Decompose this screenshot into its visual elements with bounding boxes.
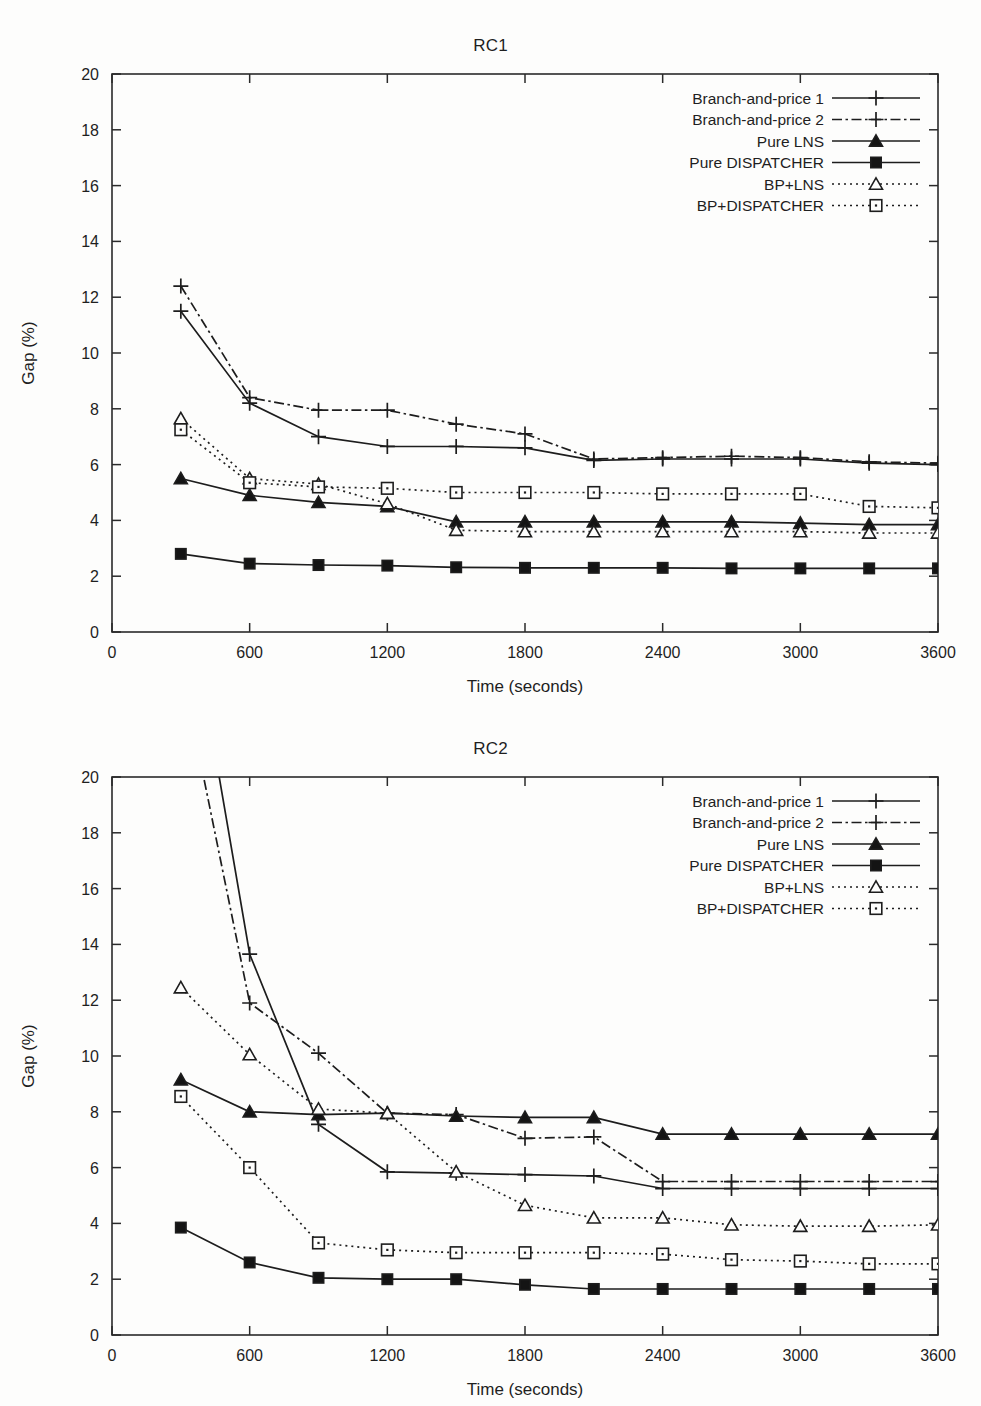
series-3: [174, 1074, 944, 1140]
series-line: [181, 419, 938, 533]
data-point: [589, 563, 599, 573]
y-tick-label: 10: [81, 345, 99, 362]
data-point: [587, 1212, 600, 1223]
data-point-dot: [386, 1249, 388, 1251]
legend-label: Pure DISPATCHER: [689, 154, 824, 171]
series-1: [173, 304, 945, 472]
data-point: [655, 450, 670, 465]
y-tick-label: 8: [90, 1104, 99, 1121]
data-point: [864, 563, 874, 573]
data-point: [933, 1284, 943, 1294]
x-tick-label: 600: [236, 644, 263, 661]
legend-label: Branch-and-price 2: [692, 814, 824, 831]
legend-label: BP+DISPATCHER: [697, 900, 824, 917]
y-tick-label: 6: [90, 457, 99, 474]
figure-page: RC1 024681012141618200600120018002400300…: [0, 0, 981, 1406]
data-point-dot: [593, 1252, 595, 1254]
legend: Branch-and-price 1Branch-and-price 2Pure…: [689, 793, 920, 918]
data-point: [933, 563, 943, 573]
data-point: [657, 563, 667, 573]
data-point-dot: [455, 491, 457, 493]
data-point: [244, 1257, 254, 1267]
legend-label: Pure LNS: [757, 133, 824, 150]
plot-canvas-rc2: 0246810121416182006001200180024003000360…: [0, 703, 981, 1406]
data-point-dot: [662, 493, 664, 495]
data-point: [725, 1219, 738, 1230]
data-point: [449, 417, 464, 432]
y-tick-label: 8: [90, 401, 99, 418]
legend-marker: [869, 112, 884, 127]
data-point: [242, 995, 257, 1010]
y-tick-label: 10: [81, 1048, 99, 1065]
legend-label: Pure DISPATCHER: [689, 857, 824, 874]
legend-marker: [869, 794, 884, 809]
legend-label: BP+LNS: [764, 176, 824, 193]
data-point-dot: [524, 1252, 526, 1254]
data-point: [518, 440, 533, 455]
y-tick-label: 12: [81, 992, 99, 1009]
legend-label: Branch-and-price 1: [692, 793, 824, 810]
y-tick-label: 2: [90, 568, 99, 585]
data-point: [174, 412, 187, 423]
y-tick-label: 0: [90, 624, 99, 641]
y-tick-label: 16: [81, 178, 99, 195]
series-line: [181, 430, 938, 508]
series-5: [174, 412, 944, 538]
data-point-dot: [317, 486, 319, 488]
series-line: [181, 479, 938, 525]
series-2: [173, 279, 945, 471]
data-point: [311, 429, 326, 444]
legend-marker: [871, 157, 881, 167]
series-line: [181, 1097, 938, 1264]
series-4: [176, 1222, 944, 1294]
data-point-dot: [868, 1263, 870, 1265]
data-point: [520, 563, 530, 573]
series-line: [181, 665, 938, 1181]
y-tick-label: 14: [81, 936, 99, 953]
data-point: [724, 1174, 739, 1189]
data-point: [173, 304, 188, 319]
x-tick-label: 0: [108, 644, 117, 661]
y-tick-label: 14: [81, 233, 99, 250]
data-point-dot: [593, 491, 595, 493]
data-point-dot: [180, 1095, 182, 1097]
x-tick-label: 2400: [645, 644, 681, 661]
data-point-dot: [524, 491, 526, 493]
y-axis-label: Gap (%): [19, 321, 38, 384]
data-point: [382, 1274, 392, 1284]
x-tick-label: 1800: [507, 644, 543, 661]
legend-marker-dot: [875, 907, 877, 909]
series-line: [181, 988, 938, 1227]
y-tick-label: 12: [81, 289, 99, 306]
legend-marker: [869, 815, 884, 830]
plot-canvas-rc1: 0246810121416182006001200180024003000360…: [0, 0, 981, 703]
x-axis-label: Time (seconds): [467, 677, 584, 696]
data-point-dot: [799, 1260, 801, 1262]
data-point: [451, 562, 461, 572]
legend-label: Branch-and-price 1: [692, 90, 824, 107]
legend-label: Pure LNS: [757, 836, 824, 853]
data-point-dot: [249, 1167, 251, 1169]
data-point: [173, 279, 188, 294]
data-point-dot: [317, 1242, 319, 1244]
series-line: [181, 554, 938, 569]
data-point-dot: [249, 482, 251, 484]
data-point: [313, 1273, 323, 1283]
data-point: [518, 1167, 533, 1182]
data-point: [312, 1103, 325, 1114]
series-2: [181, 665, 946, 1189]
data-point-dot: [180, 429, 182, 431]
x-tick-label: 1200: [370, 1347, 406, 1364]
x-tick-label: 0: [108, 1347, 117, 1364]
data-point: [586, 452, 601, 467]
data-point: [174, 472, 187, 483]
x-tick-label: 600: [236, 1347, 263, 1364]
y-tick-label: 20: [81, 769, 99, 786]
data-point: [449, 439, 464, 454]
data-point: [586, 1129, 601, 1144]
x-tick-label: 2400: [645, 1347, 681, 1364]
legend-marker-dot: [875, 204, 877, 206]
data-point: [176, 1222, 186, 1232]
y-tick-label: 20: [81, 66, 99, 83]
data-point: [724, 449, 739, 464]
